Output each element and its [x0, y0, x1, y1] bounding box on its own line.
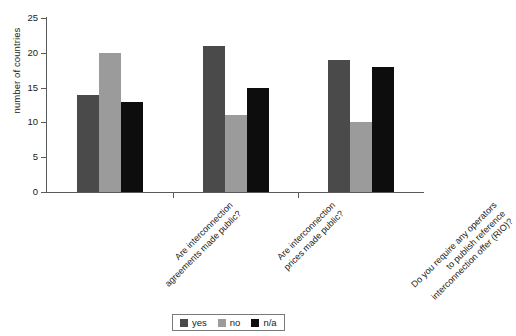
bar-no-group3	[350, 122, 372, 192]
y-tick-mark	[41, 192, 47, 193]
legend-label: n/a	[263, 318, 276, 328]
x-category-label-3: Do you require any operatorsto publish r…	[409, 200, 516, 307]
legend-swatch-icon	[251, 319, 259, 327]
x-category-label-line: Are interconnection	[154, 200, 235, 281]
bar-no-group1	[99, 53, 121, 192]
x-category-label-line: to publish reference	[417, 208, 508, 299]
bar-na-group3	[372, 67, 394, 192]
bar-yes-group2	[203, 46, 225, 192]
y-tick-mark	[41, 18, 47, 19]
y-tick-label: 5	[6, 152, 38, 162]
y-tick-label: 20	[6, 48, 38, 58]
y-tick-label-text: 25	[8, 13, 38, 23]
y-tick-label-text: 5	[8, 152, 38, 162]
y-tick-label: 25	[6, 13, 38, 23]
legend-label: yes	[192, 318, 207, 328]
x-category-label-1: Are interconnectionagreements made publi…	[154, 200, 243, 289]
x-category-label-line: agreements made public?	[162, 208, 243, 289]
x-axis-line	[46, 192, 424, 193]
y-tick-label-text: 20	[8, 48, 38, 58]
y-tick-label: 10	[6, 117, 38, 127]
y-tick-label: 15	[6, 83, 38, 93]
legend-entry-na[interactable]: n/a	[251, 318, 276, 328]
legend-label: no	[230, 318, 241, 328]
chart-legend: yesnon/a	[172, 314, 285, 331]
x-tick-mark	[298, 193, 299, 198]
x-category-label-2: Are interconnectionprices made public?	[273, 200, 346, 273]
bar-yes-group3	[328, 60, 350, 192]
legend-swatch-icon	[180, 319, 188, 327]
y-tick-label-text: 15	[8, 83, 38, 93]
y-tick-label-text: 0	[8, 187, 38, 197]
y-tick-label-text: 10	[8, 117, 38, 127]
bar-na-group2	[247, 88, 269, 192]
y-tick-label: 0	[6, 187, 38, 197]
y-tick-mark	[41, 157, 47, 158]
legend-entry-yes[interactable]: yes	[180, 318, 207, 328]
bar-na-group1	[121, 102, 143, 192]
y-tick-mark	[41, 88, 47, 89]
y-axis-line	[46, 17, 47, 193]
y-axis-label: number of countries	[11, 11, 22, 131]
bar-no-group2	[225, 115, 247, 192]
bar-yes-group1	[77, 95, 99, 192]
legend-swatch-icon	[218, 319, 226, 327]
y-tick-mark	[41, 122, 47, 123]
x-tick-mark	[173, 193, 174, 198]
y-tick-mark	[41, 53, 47, 54]
legend-entry-no[interactable]: no	[218, 318, 241, 328]
